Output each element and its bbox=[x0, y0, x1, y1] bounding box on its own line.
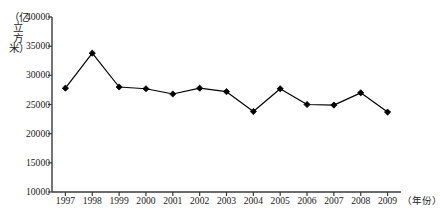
x-axis-label: （年份） bbox=[402, 196, 440, 206]
